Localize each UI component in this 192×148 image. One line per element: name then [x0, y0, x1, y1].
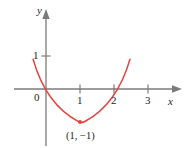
- y-axis-label: y: [37, 5, 42, 16]
- x-axis-arrow-icon: [172, 85, 182, 92]
- x-tick-label-2: 2: [111, 95, 117, 106]
- y-tick-label-1: 1: [33, 50, 39, 61]
- x-axis-label: x: [168, 96, 173, 107]
- parabola-curve: [33, 59, 130, 122]
- parabola-figure: y x 0 1 2 3 1 (1, −1): [0, 0, 192, 148]
- plot-canvas: [0, 0, 192, 148]
- y-axis-arrow-icon: [42, 9, 49, 19]
- x-tick-label-3: 3: [145, 95, 151, 106]
- vertex-coordinate-label: (1, −1): [66, 130, 95, 141]
- origin-label: 0: [34, 92, 40, 103]
- x-tick-label-1: 1: [77, 95, 83, 106]
- vertex-point-marker: [78, 120, 82, 124]
